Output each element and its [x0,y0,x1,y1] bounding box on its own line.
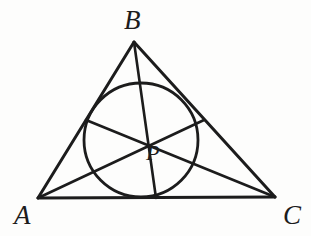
geometry-figure: B A C P [0,0,311,236]
cevian-b-segment [134,42,156,198]
vertex-label-c: C [283,202,301,229]
triangle-side-ac [38,197,275,198]
vertex-label-b: B [124,7,141,34]
vertex-label-a: A [14,202,31,229]
triangle-side-bc [134,42,275,197]
geometry-canvas [0,0,311,236]
point-label-p: P [146,142,159,164]
